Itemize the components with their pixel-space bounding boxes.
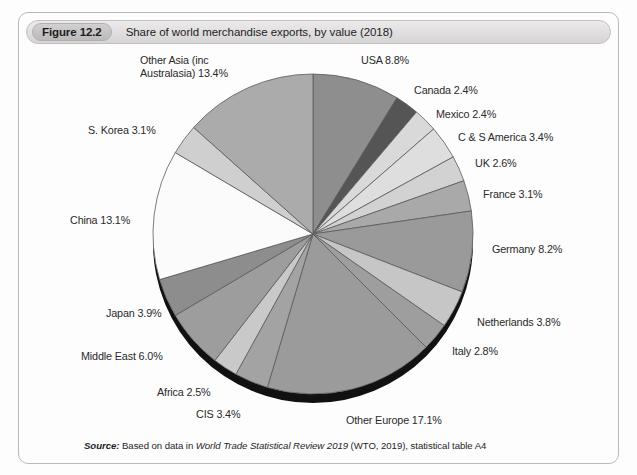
pie-slice-label: S. Korea 3.1% bbox=[88, 124, 156, 137]
figure-page: Figure 12.2 Share of world merchandise e… bbox=[0, 0, 637, 475]
pie-slice-label: Germany 8.2% bbox=[492, 243, 562, 256]
source-note: Source: Based on data in World Trade Sta… bbox=[84, 440, 486, 451]
pie-slice-label: CIS 3.4% bbox=[196, 408, 240, 421]
pie-slice-label: Other Europe 17.1% bbox=[346, 414, 442, 427]
source-text-after: (WTO, 2019), statistical table A4 bbox=[348, 440, 486, 451]
pie-slice-label: UK 2.6% bbox=[475, 157, 517, 170]
source-text-before: Based on data in bbox=[119, 440, 195, 451]
pie-slice-label: Africa 2.5% bbox=[157, 386, 211, 399]
pie-slice-label: Netherlands 3.8% bbox=[477, 316, 560, 329]
pie-slice-label: USA 8.8% bbox=[361, 54, 409, 67]
figure-title-bar: Figure 12.2 Share of world merchandise e… bbox=[26, 20, 611, 44]
pie-chart: USA 8.8%Canada 2.4%Mexico 2.4%C & S Amer… bbox=[26, 48, 611, 428]
pie-slice-label: China 13.1% bbox=[70, 214, 130, 227]
pie-slice-label: France 3.1% bbox=[483, 188, 543, 201]
pie-chart-svg bbox=[26, 48, 611, 428]
source-prefix: Source: bbox=[84, 440, 119, 451]
figure-number-badge: Figure 12.2 bbox=[32, 23, 112, 41]
pie-slice-label: Middle East 6.0% bbox=[81, 350, 163, 363]
source-publication-title: World Trade Statistical Review 2019 bbox=[196, 440, 348, 451]
pie-slice-label: Canada 2.4% bbox=[414, 84, 478, 97]
figure-caption: Share of world merchandise exports, by v… bbox=[126, 26, 393, 38]
pie-slice-label: C & S America 3.4% bbox=[458, 131, 553, 144]
pie-slice-label: Other Asia (inc Australasia) 13.4% bbox=[140, 54, 244, 80]
pie-slice-label: Mexico 2.4% bbox=[436, 108, 496, 121]
pie-slice-label: Italy 2.8% bbox=[452, 345, 498, 358]
pie-slices-group bbox=[153, 74, 473, 394]
pie-slice-label: Japan 3.9% bbox=[106, 307, 162, 320]
